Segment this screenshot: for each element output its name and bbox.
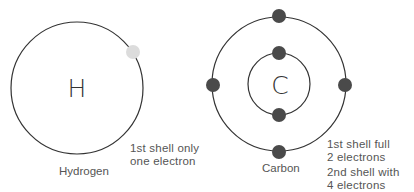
carbon-note: 1st shell full 2 electrons 2nd shell wit… <box>327 138 399 191</box>
carbon-label: Carbon <box>262 162 300 175</box>
carbon-shell1-electron <box>272 46 286 60</box>
carbon-atom: C <box>206 9 352 159</box>
hydrogen-atom: H <box>11 22 143 154</box>
hydrogen-label: Hydrogen <box>59 165 109 178</box>
carbon-shell1-electron <box>272 108 286 122</box>
hydrogen-electron <box>126 45 140 59</box>
carbon-note-line: 4 electrons <box>327 179 399 192</box>
hydrogen-note-line: one electron <box>130 155 199 168</box>
hydrogen-symbol: H <box>68 74 87 103</box>
carbon-shell2-electron <box>338 78 352 92</box>
hydrogen-note: 1st shell only one electron <box>130 142 199 167</box>
carbon-shell2-electron <box>272 145 286 159</box>
carbon-note-line: 2nd shell with <box>327 166 399 179</box>
hydrogen-note-line: 1st shell only <box>130 142 199 155</box>
carbon-shell2-electron <box>272 9 286 23</box>
carbon-shell2-electron <box>206 78 220 92</box>
carbon-note-line: 2 electrons <box>327 151 399 164</box>
carbon-symbol: C <box>271 71 288 100</box>
carbon-note-line: 1st shell full <box>327 138 399 151</box>
